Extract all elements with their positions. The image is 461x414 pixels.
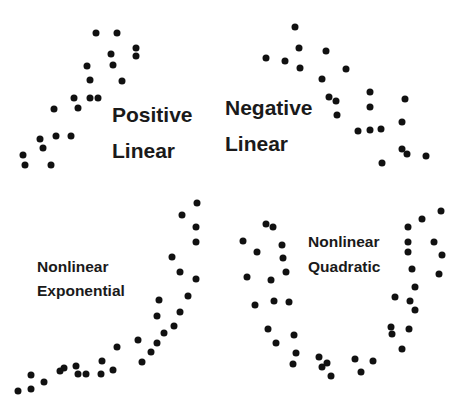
data-point bbox=[399, 146, 406, 153]
data-point bbox=[99, 358, 106, 365]
data-point bbox=[75, 105, 82, 112]
data-point bbox=[367, 104, 374, 111]
data-point bbox=[114, 30, 121, 37]
data-point bbox=[405, 249, 412, 256]
data-point bbox=[283, 269, 290, 276]
data-point bbox=[133, 53, 140, 60]
data-point bbox=[68, 133, 75, 140]
data-point bbox=[292, 24, 299, 31]
data-point bbox=[177, 269, 184, 276]
data-point bbox=[273, 340, 280, 347]
panel-label-line-1: Nonlinear bbox=[308, 233, 379, 250]
data-point bbox=[290, 361, 297, 368]
data-point bbox=[367, 127, 374, 134]
data-point bbox=[108, 51, 115, 58]
data-point bbox=[71, 95, 78, 102]
data-point bbox=[402, 96, 409, 103]
data-point bbox=[28, 386, 35, 393]
data-point bbox=[409, 266, 416, 273]
panel-label-line-2: Quadratic bbox=[308, 258, 381, 275]
data-point bbox=[367, 89, 374, 96]
data-point bbox=[87, 77, 94, 84]
data-point bbox=[161, 330, 168, 337]
data-point bbox=[148, 349, 155, 356]
data-point bbox=[177, 309, 184, 316]
data-point bbox=[279, 242, 286, 249]
data-point bbox=[84, 63, 91, 70]
data-point bbox=[193, 239, 200, 246]
data-point bbox=[268, 277, 275, 284]
data-point bbox=[48, 162, 55, 169]
data-point bbox=[20, 152, 27, 159]
data-point bbox=[399, 346, 406, 353]
data-point bbox=[51, 106, 58, 113]
panel-label-line-1: Negative bbox=[225, 96, 313, 119]
data-point bbox=[37, 136, 44, 143]
data-point bbox=[15, 388, 22, 395]
data-point bbox=[282, 58, 289, 65]
data-point bbox=[244, 274, 251, 281]
panel-positive-linear: Positive Linear bbox=[20, 30, 193, 169]
data-point bbox=[378, 126, 385, 133]
data-point bbox=[83, 371, 90, 378]
data-point bbox=[119, 78, 126, 85]
data-point bbox=[95, 95, 102, 102]
data-point bbox=[254, 249, 261, 256]
data-point bbox=[436, 271, 443, 278]
data-point bbox=[110, 367, 117, 374]
data-point bbox=[297, 65, 304, 72]
data-point bbox=[399, 119, 406, 126]
data-point bbox=[291, 332, 298, 339]
data-point bbox=[135, 337, 142, 344]
data-point bbox=[286, 299, 293, 306]
data-point bbox=[57, 368, 64, 375]
data-point bbox=[405, 224, 412, 231]
data-point bbox=[343, 66, 350, 73]
data-point bbox=[439, 252, 446, 259]
data-point bbox=[193, 224, 200, 231]
data-point bbox=[28, 372, 35, 379]
data-point bbox=[280, 255, 287, 262]
data-point bbox=[179, 212, 186, 219]
data-point bbox=[194, 200, 201, 207]
data-point bbox=[263, 55, 270, 62]
scatter-diagram: Positive Linear Negative Linear Nonlinea… bbox=[0, 0, 461, 414]
data-point bbox=[98, 371, 105, 378]
data-point bbox=[40, 145, 47, 152]
data-point bbox=[265, 326, 272, 333]
data-point bbox=[324, 360, 331, 367]
data-point bbox=[139, 359, 146, 366]
data-point bbox=[407, 298, 414, 305]
data-point bbox=[423, 153, 430, 160]
data-point bbox=[75, 371, 82, 378]
data-point bbox=[171, 323, 178, 330]
data-point bbox=[154, 313, 161, 320]
data-point bbox=[412, 284, 419, 291]
panel-label-line-2: Linear bbox=[225, 132, 288, 155]
data-point bbox=[270, 224, 277, 231]
data-point bbox=[355, 128, 362, 135]
data-point bbox=[133, 45, 140, 52]
data-point bbox=[22, 162, 29, 169]
panel-negative-linear: Negative Linear bbox=[225, 24, 430, 167]
data-point bbox=[193, 276, 200, 283]
data-point bbox=[419, 216, 426, 223]
data-point bbox=[93, 30, 100, 37]
data-point bbox=[73, 363, 80, 370]
panel-label-line-2: Linear bbox=[112, 139, 175, 162]
data-point bbox=[293, 350, 300, 357]
data-point bbox=[114, 344, 121, 351]
data-point bbox=[334, 112, 341, 119]
data-point bbox=[263, 221, 270, 228]
panel-label-line-1: Positive bbox=[112, 103, 193, 126]
data-point bbox=[358, 369, 365, 376]
panel-label-line-1: Nonlinear bbox=[37, 258, 108, 275]
data-point bbox=[404, 151, 411, 158]
data-point bbox=[326, 94, 333, 101]
data-point bbox=[406, 326, 413, 333]
data-point bbox=[252, 302, 259, 309]
panel-label-line-2: Exponential bbox=[37, 282, 125, 299]
data-point bbox=[388, 324, 395, 331]
data-point bbox=[389, 331, 396, 338]
panel-nonlinear-exponential: Nonlinear Exponential bbox=[15, 200, 201, 395]
